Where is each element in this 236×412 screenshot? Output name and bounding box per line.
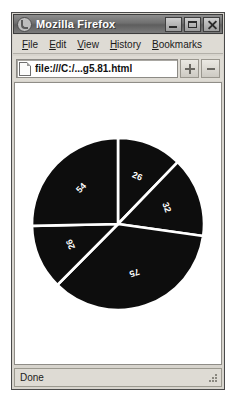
add-button[interactable] [180,59,199,78]
menu-rest-file: ile [28,39,38,50]
menu-accel-bookmarks: B [152,39,159,50]
maximize-button[interactable] [184,17,201,32]
menu-item-edit[interactable]: Edit [44,38,72,51]
title-bar[interactable]: Mozilla Firefox [13,14,223,34]
menu-bar: File Edit View History Bookmarks [13,35,223,54]
window-controls [165,17,220,32]
pie-slice [32,138,118,226]
menu-item-bookmarks[interactable]: Bookmarks [147,38,208,51]
menu-rest-edit: dit [56,39,67,50]
menu-item-file[interactable]: File [17,38,44,51]
status-bar: Done [14,368,222,387]
navigation-toolbar: file:///C:/...g5.81.html [13,56,223,81]
menu-accel-edit: E [49,39,56,50]
menu-rest-bookmarks: ookmarks [159,39,202,50]
pie-chart: 2632752654 [30,136,206,312]
pie-slices [32,138,204,310]
window-title: Mozilla Firefox [36,18,165,30]
menu-rest-view: iew [84,39,99,50]
page-viewport: 2632752654 [14,82,222,365]
address-bar[interactable]: file:///C:/...g5.81.html [16,59,178,78]
pie-chart-svg: 2632752654 [30,136,206,312]
close-button[interactable] [203,17,220,32]
more-button[interactable] [201,59,220,78]
status-text: Done [15,372,207,383]
address-input[interactable]: file:///C:/...g5.81.html [35,63,132,74]
menu-item-view[interactable]: View [72,38,105,51]
page-icon [19,62,31,76]
menu-rest-history: istory [117,39,141,50]
firefox-icon [17,17,32,32]
minimize-button[interactable] [165,17,182,32]
menu-item-history[interactable]: History [105,38,147,51]
browser-window: Mozilla Firefox File Edit View History B… [11,12,225,390]
resize-grip[interactable] [207,372,219,384]
